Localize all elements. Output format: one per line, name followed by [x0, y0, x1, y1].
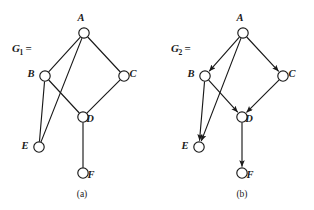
node-label-f: F: [86, 169, 94, 180]
edge-c-d: [87, 80, 120, 113]
edge-layer: [39, 37, 120, 167]
panel-caption: (b): [236, 189, 247, 200]
panel-b: ABCDEFG2=(b): [171, 12, 296, 200]
node-b[interactable]: [40, 71, 50, 81]
node-c[interactable]: [119, 71, 129, 81]
edge-a-c: [247, 37, 278, 71]
node-label-d: D: [244, 113, 253, 124]
node-e[interactable]: [34, 142, 44, 152]
graph-name-subscript: 2: [179, 48, 183, 57]
node-layer: ABCDEF: [20, 12, 137, 180]
edge-a-c: [88, 37, 120, 72]
graph-name-equals: =: [26, 42, 32, 54]
edge-a-e: [201, 38, 240, 140]
graph-name-label: G1=: [12, 42, 32, 57]
node-label-a: A: [76, 12, 84, 23]
panel-a: ABCDEFG1=(a): [12, 12, 137, 200]
node-layer: ABCDEF: [180, 12, 296, 180]
node-label-e: E: [20, 140, 28, 151]
node-e[interactable]: [194, 142, 204, 152]
node-label-a: A: [235, 12, 243, 23]
graph-name-subscript: 1: [20, 48, 24, 57]
node-label-e: E: [180, 140, 188, 151]
node-label-b: B: [26, 68, 34, 79]
panel-caption: (a): [77, 189, 88, 200]
figure-canvas: ABCDEFG1=(a)ABCDEFG2=(b): [0, 0, 314, 210]
node-label-c: C: [288, 68, 296, 79]
edge-b-e: [200, 82, 205, 140]
node-a[interactable]: [79, 28, 89, 38]
edge-a-e: [41, 38, 82, 141]
edge-c-d: [247, 80, 279, 112]
node-a[interactable]: [238, 28, 248, 38]
edge-b-e: [39, 82, 44, 141]
node-label-d: D: [85, 113, 94, 124]
node-label-c: C: [129, 68, 137, 79]
edge-layer: [200, 37, 279, 166]
graph-figure-svg: ABCDEFG1=(a)ABCDEFG2=(b): [0, 0, 314, 210]
node-c[interactable]: [278, 71, 288, 81]
node-b[interactable]: [200, 71, 210, 81]
node-label-b: B: [186, 68, 194, 79]
graph-name-label: G2=: [171, 42, 191, 57]
node-label-f: F: [245, 169, 253, 180]
graph-name-equals: =: [185, 42, 191, 54]
